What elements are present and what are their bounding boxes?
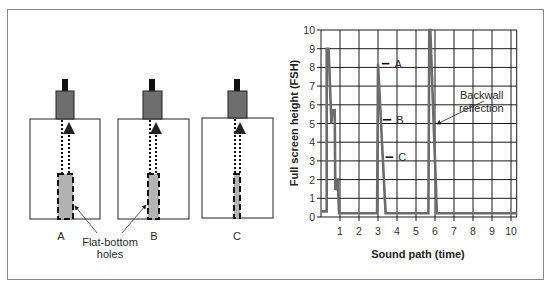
callout-label-line2: holes (97, 248, 124, 260)
chart-grid (317, 30, 517, 221)
x-axis-ticks: 12345678910 (337, 225, 517, 237)
y-tick-label: 3 (309, 155, 315, 167)
flat-bottom-hole (234, 174, 240, 218)
specimen-label-c: C (233, 230, 241, 242)
marker-label: A (394, 58, 402, 70)
connector (234, 79, 240, 91)
x-tick-label: 6 (432, 225, 438, 237)
flat-bottom-hole (148, 174, 159, 219)
x-tick-label: 8 (470, 225, 476, 237)
x-tick-label: 7 (451, 225, 457, 237)
x-tick-label: 2 (356, 225, 362, 237)
y-tick-label: 1 (309, 192, 315, 204)
x-tick-label: 1 (337, 225, 343, 237)
transducer (228, 91, 247, 118)
y-tick-label: 10 (303, 24, 315, 36)
y-tick-label: 2 (309, 174, 315, 186)
callout-label-line1: Flat-bottom (82, 236, 138, 248)
x-tick-label: 4 (394, 225, 400, 237)
y-axis-title: Full screen height (FSH) (288, 59, 300, 186)
x-tick-label: 10 (505, 225, 517, 237)
y-tick-label: 4 (309, 136, 315, 148)
a-scan-trace (321, 30, 517, 213)
specimen-c (202, 79, 273, 218)
connector (62, 79, 68, 91)
marker-label: B (396, 114, 403, 126)
x-tick-label: 3 (375, 225, 381, 237)
specimen-a (30, 79, 100, 219)
x-tick-label: 9 (489, 225, 495, 237)
backwall-label-line2: reflection (459, 102, 504, 114)
y-axis-ticks: 012345678910 (303, 24, 315, 223)
backwall-label-line1: Backwall (460, 89, 503, 101)
specimen-label-a: A (57, 230, 65, 242)
specimen-b (118, 79, 189, 219)
marker-label: C (398, 151, 406, 163)
y-tick-label: 8 (309, 61, 315, 73)
specimen-label-b: B (150, 230, 157, 242)
reference-markers: ABC (382, 58, 406, 164)
flat-bottom-hole (58, 174, 73, 219)
figure-canvas: A B C Flat-bottom holes 012345678910 123… (0, 0, 552, 286)
y-tick-label: 7 (309, 80, 315, 92)
y-tick-label: 5 (309, 118, 315, 130)
x-tick-label: 5 (413, 225, 419, 237)
y-tick-label: 6 (309, 99, 315, 111)
y-tick-label: 0 (309, 211, 315, 223)
transducer (143, 91, 162, 119)
transducer (56, 91, 74, 119)
x-axis-title: Sound path (time) (371, 248, 465, 260)
y-tick-label: 9 (309, 43, 315, 55)
connector (149, 79, 155, 91)
